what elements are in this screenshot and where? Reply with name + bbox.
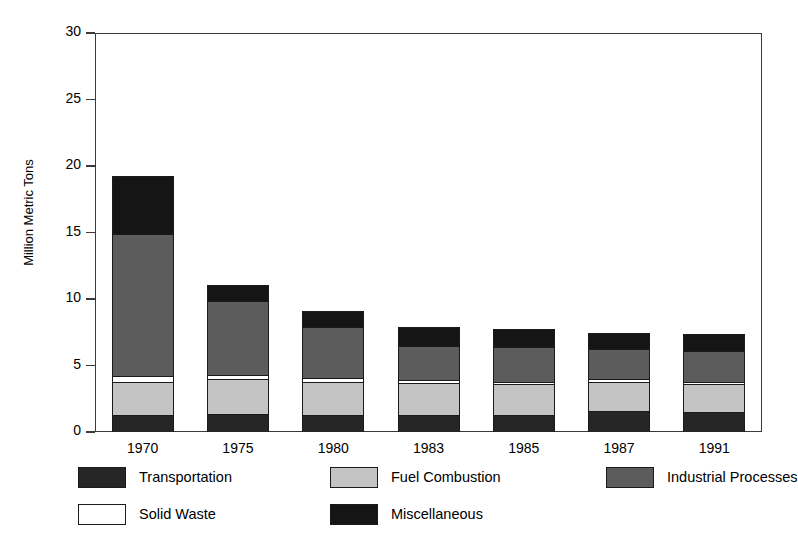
bar-segment[interactable] <box>303 416 363 432</box>
legend-swatch <box>606 467 654 488</box>
bar-segment[interactable] <box>494 416 554 432</box>
bar-segment[interactable] <box>589 334 649 350</box>
y-axis-tick-label: 30 <box>65 23 81 39</box>
legend-label: Fuel Combustion <box>391 469 501 485</box>
bar-segment[interactable] <box>113 177 173 236</box>
y-axis-tick-mark <box>86 165 95 167</box>
legend-label: Miscellaneous <box>391 506 483 522</box>
legend-item[interactable]: Fuel Combustion <box>330 466 501 488</box>
bar-stack[interactable] <box>398 327 460 432</box>
legend-item[interactable]: Solid Waste <box>78 503 216 525</box>
bar-segment[interactable] <box>303 328 363 379</box>
bar-group[interactable] <box>207 285 269 432</box>
bar-segment[interactable] <box>113 235 173 377</box>
legend-swatch <box>330 504 378 525</box>
x-axis-label: 1980 <box>302 440 364 456</box>
legend-item[interactable]: Miscellaneous <box>330 503 483 525</box>
bar-segment[interactable] <box>589 350 649 381</box>
y-axis-tick-label: 5 <box>73 356 81 372</box>
x-axis-label: 1975 <box>207 440 269 456</box>
x-axis-label: 1983 <box>398 440 460 456</box>
bar-segment[interactable] <box>303 383 363 416</box>
bar-segment[interactable] <box>494 330 554 349</box>
bar-segment[interactable] <box>684 385 744 413</box>
legend-swatch <box>78 504 126 525</box>
bar-segment[interactable] <box>208 415 268 432</box>
y-axis-tick-mark <box>86 99 95 101</box>
bar-group[interactable] <box>398 327 460 432</box>
bar-group[interactable] <box>588 333 650 432</box>
bar-segment[interactable] <box>399 384 459 416</box>
legend-label: Solid Waste <box>139 506 216 522</box>
bar-group[interactable] <box>302 311 364 432</box>
bar-stack[interactable] <box>302 311 364 432</box>
legend-swatch <box>78 467 126 488</box>
y-axis-tick-label: 0 <box>73 422 81 438</box>
legend-swatch <box>330 467 378 488</box>
bar-segment[interactable] <box>113 383 173 416</box>
chart-legend: TransportationFuel CombustionIndustrial … <box>78 466 778 536</box>
bar-group[interactable] <box>493 329 555 432</box>
bar-segment[interactable] <box>303 312 363 328</box>
y-axis-title: Million Metric Tons <box>21 103 36 323</box>
y-axis-tick-mark <box>86 32 95 34</box>
y-axis-tick-label: 25 <box>65 90 81 106</box>
y-axis-title-container: Million Metric Tons <box>0 0 34 440</box>
bar-stack[interactable] <box>207 285 269 432</box>
legend-item[interactable]: Transportation <box>78 466 232 488</box>
y-axis-tick-mark <box>86 232 95 234</box>
bar-stack[interactable] <box>493 329 555 432</box>
y-axis-tick-label: 15 <box>65 223 81 239</box>
bar-group[interactable] <box>112 176 174 432</box>
legend-label: Transportation <box>139 469 232 485</box>
x-axis-label: 1985 <box>493 440 555 456</box>
y-axis-tick-mark <box>86 298 95 300</box>
x-axis-label: 1987 <box>588 440 650 456</box>
bar-segment[interactable] <box>589 412 649 432</box>
y-axis-tick-label: 10 <box>65 289 81 305</box>
legend-label: Industrial Processes <box>667 469 798 485</box>
bar-segment[interactable] <box>494 385 554 416</box>
x-axis-label: 1991 <box>683 440 745 456</box>
y-axis-tick-mark <box>86 365 95 367</box>
legend-item[interactable]: Industrial Processes <box>606 466 798 488</box>
bars-layer <box>95 33 762 432</box>
bar-segment[interactable] <box>399 347 459 382</box>
legend-row: Solid WasteMiscellaneous <box>78 503 778 529</box>
bar-segment[interactable] <box>113 416 173 432</box>
bar-segment[interactable] <box>684 352 744 383</box>
bar-segment[interactable] <box>494 348 554 383</box>
bar-stack[interactable] <box>683 334 745 432</box>
bar-segment[interactable] <box>208 302 268 376</box>
bar-stack[interactable] <box>588 333 650 432</box>
bar-segment[interactable] <box>208 286 268 302</box>
legend-row: TransportationFuel CombustionIndustrial … <box>78 466 778 492</box>
bar-segment[interactable] <box>684 335 744 352</box>
bar-segment[interactable] <box>684 413 744 432</box>
bar-segment[interactable] <box>399 416 459 432</box>
x-axis-label: 1970 <box>112 440 174 456</box>
y-axis-tick-label: 20 <box>65 156 81 172</box>
bar-stack[interactable] <box>112 176 174 432</box>
bar-segment[interactable] <box>589 383 649 412</box>
bar-segment[interactable] <box>208 380 268 415</box>
bar-segment[interactable] <box>399 328 459 347</box>
y-axis-tick-mark <box>86 431 95 433</box>
bar-group[interactable] <box>683 334 745 432</box>
